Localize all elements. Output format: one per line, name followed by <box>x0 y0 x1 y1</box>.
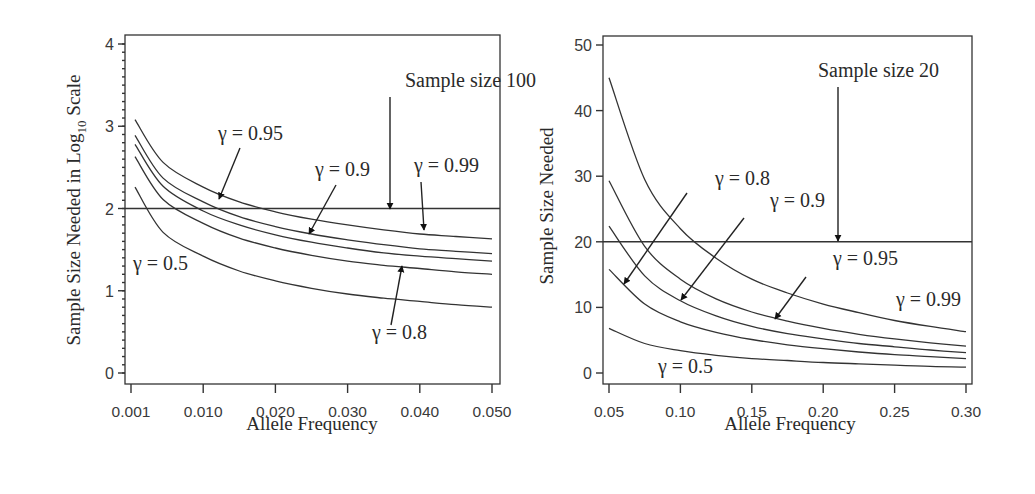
annotation-label: γ = 0.9 <box>769 189 825 212</box>
x-tick-label: 0.050 <box>473 403 512 420</box>
arrow-icon <box>219 148 240 199</box>
right-y-axis-title: Sample Size Needed <box>536 127 557 285</box>
curve-0.99 <box>135 120 492 239</box>
arrow-icon <box>681 218 744 300</box>
annotation-label: γ = 0.99 <box>413 154 479 177</box>
x-tick-label: 0.010 <box>184 403 223 420</box>
x-tick-label: 0.10 <box>665 403 696 420</box>
y-tick-label: 10 <box>574 299 592 316</box>
y-tick-label: 1 <box>105 283 114 300</box>
y-tick-label: 4 <box>105 36 114 53</box>
annotation-label: γ = 0.8 <box>714 167 770 190</box>
figure: 01234 0.0010.0100.0200.0300.0400.050 Sam… <box>0 0 1035 494</box>
y-tick-label: 3 <box>105 118 114 135</box>
left-annotations: Sample size 100γ = 0.95γ = 0.9γ = 0.99γ … <box>132 69 536 344</box>
right-curves <box>609 78 966 367</box>
arrow-icon <box>391 266 402 325</box>
right-y-axis: 01020304050 <box>574 37 603 382</box>
annotation-label: γ = 0.5 <box>132 252 188 275</box>
right-annotations: Sample size 20γ = 0.8γ = 0.9γ = 0.95γ = … <box>624 59 961 378</box>
left-y-axis-title: Sample Size Needed in Log10 Scale <box>63 74 89 345</box>
left-curves <box>135 120 492 308</box>
x-tick-label: 0.25 <box>880 403 910 420</box>
x-tick-label: 0.001 <box>112 403 151 420</box>
y-tick-label: 2 <box>105 201 114 218</box>
annotation-label: γ = 0.9 <box>314 158 370 181</box>
arrow-icon <box>421 182 424 230</box>
arrow-icon <box>309 185 336 234</box>
annotation-label: γ = 0.95 <box>217 122 283 145</box>
x-tick-label: 0.30 <box>951 403 982 420</box>
annotation-label: γ = 0.5 <box>657 355 713 378</box>
left-x-axis-title: Allele Frequency <box>246 413 378 434</box>
curve-0.5 <box>135 187 492 307</box>
right-chart: 01020304050 0.050.100.150.200.250.30 Sam… <box>536 36 981 434</box>
right-x-axis-title: Allele Frequency <box>724 413 856 434</box>
annotation-label: Sample size 100 <box>405 69 536 92</box>
annotation-label: γ = 0.8 <box>371 321 427 344</box>
arrow-icon <box>624 193 687 284</box>
x-tick-label: 0.05 <box>594 403 624 420</box>
left-chart: 01234 0.0010.0100.0200.0300.0400.050 Sam… <box>63 35 536 434</box>
y-tick-label: 20 <box>574 234 592 251</box>
annotation-label: γ = 0.95 <box>832 247 898 270</box>
annotation-label: γ = 0.99 <box>895 288 961 311</box>
left-y-axis: 01234 <box>105 36 125 382</box>
curve-0.8 <box>609 269 966 358</box>
y-tick-label: 0 <box>583 365 592 382</box>
y-tick-label: 50 <box>574 37 592 54</box>
y-tick-label: 30 <box>574 168 592 185</box>
annotation-label: Sample size 20 <box>818 59 939 82</box>
x-tick-label: 0.040 <box>400 403 439 420</box>
y-tick-label: 0 <box>105 365 114 382</box>
y-tick-label: 40 <box>574 103 592 120</box>
